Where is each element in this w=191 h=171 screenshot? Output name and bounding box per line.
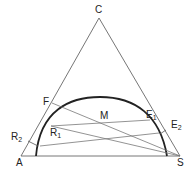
e1-sub: 1 [153,114,157,121]
vertex-label-a: A [16,158,23,168]
feed-line-f-s [52,103,180,156]
ternary-diagram: C A S F M R1 R2 E1 E2 [0,0,191,171]
point-label-f: F [43,97,49,107]
point-label-e1: E1 [146,110,157,123]
e2-main: E [171,119,178,130]
e2-sub: 2 [178,124,182,131]
line-r1-s [51,126,180,156]
vertex-label-c: C [95,5,102,15]
point-label-r2: R2 [11,132,22,145]
triangle-outline [21,18,180,156]
r2-pointer [28,141,38,146]
diagram-graphic [0,0,191,171]
r1-sub: 1 [57,132,61,139]
point-label-e2: E2 [171,120,182,133]
point-label-m: M [100,111,108,121]
vertex-label-s: S [177,158,184,168]
r2-sub: 2 [18,136,22,143]
point-label-r1: R1 [50,128,61,141]
e2-pointer [160,130,166,134]
e1-main: E [146,109,153,120]
